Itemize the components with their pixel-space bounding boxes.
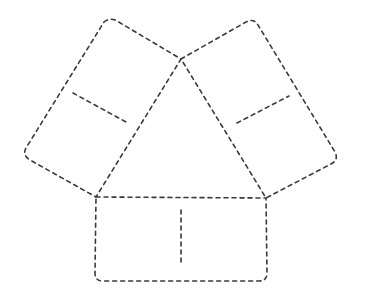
right-rectangle-divider bbox=[237, 96, 289, 123]
dashed-shapes-diagram bbox=[0, 0, 366, 305]
diagram-canvas bbox=[0, 0, 366, 305]
left-rectangle bbox=[25, 19, 181, 197]
left-rectangle-divider bbox=[73, 93, 126, 122]
right-rectangle bbox=[181, 21, 336, 198]
